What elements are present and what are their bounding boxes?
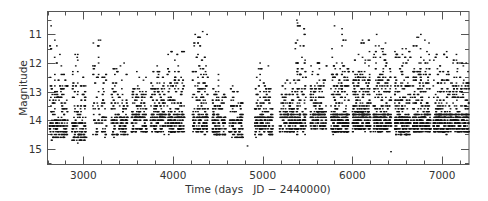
y-axis-ticks: [48, 21, 470, 164]
x-axis-ticks: [49, 12, 461, 165]
x-tick-label: 5000: [249, 169, 276, 181]
plot-frame: [48, 12, 470, 165]
x-tick-label: 3000: [70, 169, 97, 181]
x-tick-label: 7000: [429, 169, 456, 181]
x-axis-tick-labels: 30004000500060007000: [70, 169, 455, 181]
data-points: [49, 19, 470, 152]
y-tick-label: 15: [29, 143, 42, 155]
x-tick-label: 6000: [339, 169, 366, 181]
y-tick-label: 14: [29, 114, 43, 126]
y-axis-title: Magnitude: [17, 60, 29, 116]
x-tick-label: 4000: [160, 169, 187, 181]
y-tick-label: 13: [29, 86, 42, 98]
light-curve-chart: 30004000500060007000 1112131415 Time (da…: [0, 0, 488, 201]
y-axis-tick-labels: 1112131415: [29, 28, 43, 154]
y-tick-label: 11: [29, 28, 42, 40]
y-tick-label: 12: [29, 57, 42, 69]
x-axis-title: Time (days JD − 2440000): [184, 183, 330, 195]
